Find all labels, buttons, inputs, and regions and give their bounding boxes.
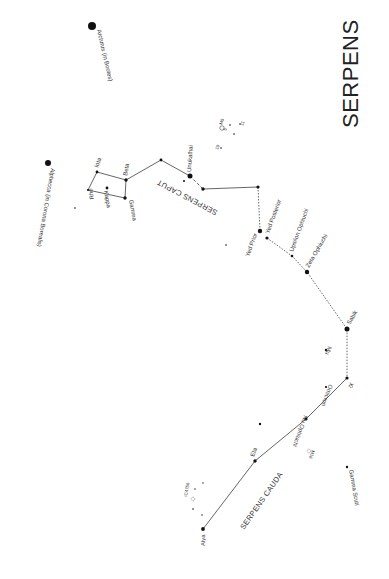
region-label-serpens-cauda: SERPENS CAUDA	[238, 470, 284, 531]
star-upsilon-oph	[291, 255, 294, 258]
star-faint	[233, 133, 235, 135]
cluster-ic4756-icon	[191, 497, 195, 501]
label-n10: 10	[214, 143, 221, 150]
label-n5: 5	[222, 127, 228, 132]
star-faint	[220, 147, 222, 149]
label-kappa: Kappa	[103, 190, 112, 209]
star-caput-end	[256, 185, 259, 188]
star-alya	[201, 527, 205, 531]
label-ic4756: IC4756	[183, 482, 191, 498]
star-iota	[96, 171, 99, 174]
star-faint	[74, 207, 76, 209]
star-sabik	[345, 327, 350, 332]
label-iota: Iota	[93, 156, 102, 168]
label-gamma-scuti: Gamma Scuti	[348, 469, 360, 506]
star-unukalhai	[188, 174, 193, 179]
label-eta: Eta	[249, 446, 258, 457]
label-omicron: Omicron	[320, 384, 333, 407]
label-nu-oph: Nu Ophiuchi	[292, 415, 309, 448]
stars	[45, 22, 350, 531]
star-gamma	[123, 196, 126, 199]
star-faint	[183, 180, 185, 182]
star-xi	[345, 376, 348, 379]
star-eta	[253, 459, 256, 462]
star-faint	[202, 482, 203, 483]
star-delta	[201, 187, 204, 190]
label-yed-posterior: Yed Posterior	[264, 199, 282, 235]
star-yed-posterior	[265, 236, 268, 239]
label-unukalhai: Unukalhai	[186, 145, 194, 172]
label-xi: Xi	[347, 382, 354, 389]
star-faint	[259, 423, 261, 425]
label-arcturus: Arcturus (in Bootes)	[96, 29, 114, 82]
star-alphecca	[45, 160, 51, 166]
label-n11: 11	[239, 120, 245, 127]
star-zeta-oph	[305, 270, 309, 274]
label-beta: Beta	[122, 162, 130, 176]
label-alya: Alya	[200, 534, 206, 546]
label-m16: M16	[308, 450, 316, 460]
region-label-serpens-caput: SERPENS CAPUT	[155, 178, 219, 218]
star-caput-bend	[160, 159, 163, 162]
star-faint	[192, 508, 194, 510]
label-rho: Rho	[87, 187, 95, 200]
star-kappa	[106, 187, 109, 190]
star-faint	[225, 244, 227, 246]
label-alphecca: Alphecca (in Corona Borealis)	[36, 168, 56, 248]
label-yed-prior: Yed Prior	[244, 232, 258, 257]
star-chart: SERPENS SERPENS CAPUT SERPENS CAUDA	[0, 0, 389, 579]
star-beta	[124, 178, 127, 181]
label-sabik: Sabik	[346, 309, 359, 326]
star-faint	[201, 514, 202, 515]
label-m5: M5	[218, 117, 225, 125]
star-yed-prior	[258, 229, 262, 233]
label-gamma: Gamma	[128, 199, 138, 222]
star-faint	[194, 488, 195, 489]
star-gamma-scuti	[346, 466, 348, 468]
label-upsilon-oph: Upsilon Ophiuchi	[288, 208, 309, 253]
star-arcturus	[88, 22, 96, 30]
star-faint	[229, 124, 231, 126]
label-zeta-oph: Zeta Ophiuchi	[305, 233, 329, 268]
label-mu: Mu	[324, 346, 332, 356]
chart-title: SERPENS	[338, 19, 363, 128]
